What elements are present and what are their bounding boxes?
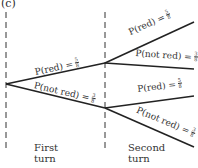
first-turn-label: First turn: [34, 142, 58, 164]
branch-second-notred-red: [105, 96, 194, 108]
branch-second-red-not-red: [105, 63, 194, 69]
second-turn-label: Second turn: [128, 142, 165, 164]
fraction: 38: [193, 51, 198, 62]
